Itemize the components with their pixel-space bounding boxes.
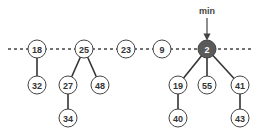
heap-node: 23 — [117, 40, 135, 58]
node-key: 27 — [63, 81, 73, 91]
tree-nodes: 18252392322748341955414043 — [28, 40, 249, 127]
heap-node: 19 — [169, 76, 187, 94]
node-key: 32 — [32, 81, 42, 91]
node-key: 9 — [159, 45, 164, 55]
node-key: 23 — [121, 45, 131, 55]
heap-node: 34 — [59, 109, 77, 127]
min-label: min — [199, 6, 215, 16]
node-key: 40 — [173, 114, 183, 124]
node-key: 34 — [63, 114, 73, 124]
node-key: 25 — [79, 45, 89, 55]
diagram-svg: min 18252392322748341955414043 — [0, 0, 263, 139]
heap-node: 48 — [91, 76, 109, 94]
heap-node: 32 — [28, 76, 46, 94]
heap-node: 40 — [169, 109, 187, 127]
node-key: 18 — [32, 45, 42, 55]
heap-node: 18 — [28, 40, 46, 58]
heap-node: 55 — [198, 76, 216, 94]
node-key: 48 — [95, 81, 105, 91]
node-key: 19 — [173, 81, 183, 91]
node-key: 2 — [204, 45, 209, 55]
heap-node: 43 — [231, 109, 249, 127]
min-node: 2 — [198, 40, 216, 58]
heap-node: 25 — [75, 40, 93, 58]
heap-node: 9 — [153, 40, 171, 58]
node-key: 43 — [235, 114, 245, 124]
heap-node: 41 — [231, 76, 249, 94]
heap-node: 27 — [59, 76, 77, 94]
node-key: 41 — [235, 81, 245, 91]
fibonacci-heap-diagram: min 18252392322748341955414043 — [0, 0, 263, 139]
node-key: 55 — [202, 81, 212, 91]
